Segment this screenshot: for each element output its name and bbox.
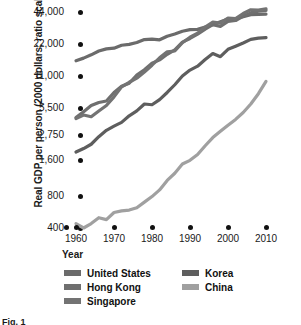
legend-label: Singapore: [87, 296, 136, 307]
x-tick-dot: [150, 225, 155, 230]
legend-swatch-icon: [182, 284, 199, 290]
legend-swatch-icon: [64, 298, 81, 304]
series-line-korea: [76, 38, 266, 153]
legend-item: Korea: [182, 266, 282, 280]
legend-swatch-icon: [182, 270, 199, 276]
legend-label: Korea: [205, 268, 233, 279]
series-line-china: [76, 81, 266, 228]
x-tick-label: 2010: [244, 233, 288, 244]
x-tick-dot: [226, 225, 231, 230]
x-axis-origin-dot: [64, 225, 69, 230]
x-tick-dot: [188, 225, 193, 230]
legend-item: Hong Kong: [64, 280, 182, 294]
legend-item: United States: [64, 266, 182, 280]
legend-swatch-icon: [64, 284, 81, 290]
legend-swatch-icon: [64, 270, 81, 276]
figure-caption: Fig. 1: [2, 317, 26, 325]
legend: United StatesHong KongSingapore KoreaChi…: [64, 266, 294, 308]
chart-figure: Real GDP per person (2000 dollars; ratio…: [0, 0, 301, 325]
legend-label: Hong Kong: [87, 282, 141, 293]
legend-item: Singapore: [64, 294, 182, 308]
x-axis-title: Year: [62, 249, 83, 260]
series-svg: [0, 0, 301, 240]
legend-label: United States: [87, 268, 151, 279]
plot-area: [0, 0, 301, 240]
legend-column-right: KoreaChina: [182, 266, 282, 308]
legend-column-left: United StatesHong KongSingapore: [64, 266, 182, 308]
legend-label: China: [205, 282, 233, 293]
x-tick-dot: [74, 225, 79, 230]
series-line-hong-kong: [76, 10, 266, 117]
x-tick-dot: [112, 225, 117, 230]
x-tick-dot: [264, 225, 269, 230]
legend-item: China: [182, 280, 282, 294]
